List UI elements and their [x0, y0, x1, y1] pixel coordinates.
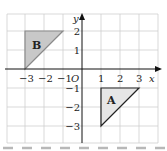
svg-text:3: 3: [136, 73, 142, 84]
shape-a-label: A: [106, 94, 116, 107]
svg-text:−3: −3: [65, 121, 80, 132]
svg-text:1: 1: [74, 45, 80, 56]
y-axis-label: y: [72, 13, 79, 24]
svg-text:1: 1: [98, 73, 104, 84]
x-tick-labels: −3 −2 −1 1 2 3: [19, 73, 142, 84]
coordinate-diagram: B A y x O −3 −2 −1 1 2 3 2 1 −1 −2 −3: [0, 0, 167, 151]
svg-text:−2: −2: [65, 102, 80, 113]
svg-text:2: 2: [117, 73, 123, 84]
svg-text:−1: −1: [65, 83, 80, 94]
svg-text:−2: −2: [38, 73, 53, 84]
svg-text:2: 2: [74, 26, 80, 37]
x-axis-arrow-icon: [155, 66, 162, 72]
x-axis-label: x: [149, 73, 155, 84]
svg-text:−3: −3: [19, 73, 34, 84]
shape-b-label: B: [32, 39, 41, 52]
